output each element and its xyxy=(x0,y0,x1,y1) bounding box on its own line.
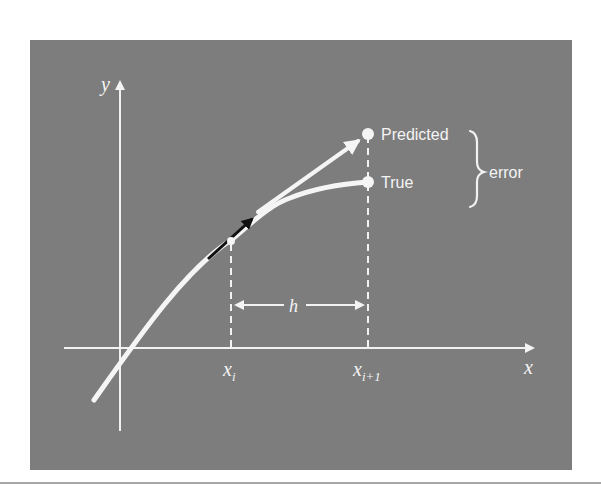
predicted-point xyxy=(362,128,374,140)
xi-point xyxy=(227,237,235,245)
x-axis-label: x xyxy=(523,356,533,378)
euler-method-diagram: y x h xi xi+1 Predicted True error xyxy=(0,0,601,491)
true-point xyxy=(362,176,374,188)
true-label: True xyxy=(381,174,413,191)
y-axis-label: y xyxy=(99,73,110,96)
figure-panel xyxy=(30,40,572,470)
error-label: error xyxy=(489,164,523,181)
predicted-label: Predicted xyxy=(381,126,449,143)
step-size-label: h xyxy=(289,296,298,316)
